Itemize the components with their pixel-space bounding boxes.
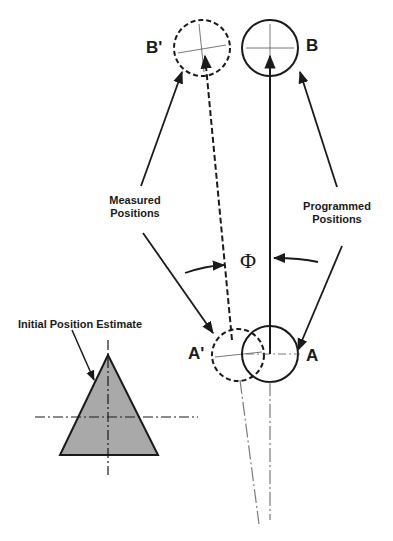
programmed-arrow-to-b: [300, 72, 337, 187]
initial-estimate-arrow: [72, 330, 94, 380]
label-b: B: [306, 36, 318, 56]
programmed-arrow-to-a: [298, 246, 342, 350]
label-programmed-positions: Programmed Positions: [297, 200, 377, 226]
label-phi-angle: Φ: [240, 248, 256, 274]
phi-arrow-left: [185, 265, 224, 273]
measured-line1: Measured: [100, 194, 170, 207]
programmed-line2: Positions: [297, 213, 377, 226]
measured-centerline: [240, 380, 259, 524]
alignment-diagram: [0, 0, 393, 541]
measured-arrow-to-a-prime: [143, 233, 213, 333]
measured-line2: Positions: [100, 207, 170, 220]
measured-position-a-prime-circle: [212, 329, 264, 381]
measured-position-b-prime-circle: [174, 20, 230, 76]
label-a-prime: A': [188, 344, 204, 364]
programmed-line1: Programmed: [297, 200, 377, 213]
label-measured-positions: Measured Positions: [100, 194, 170, 220]
measured-arrow-to-b-prime: [141, 72, 182, 186]
label-initial-position-estimate: Initial Position Estimate: [18, 318, 142, 331]
label-a: A: [306, 346, 318, 366]
initial-position-triangle: [35, 340, 198, 475]
label-b-prime: B': [146, 38, 162, 58]
phi-arrow-right: [274, 258, 318, 262]
measured-path-line: [205, 56, 232, 340]
